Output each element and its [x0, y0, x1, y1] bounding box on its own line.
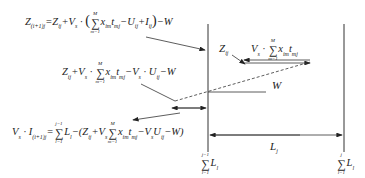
left-axis-label: ∑j−1l=1Ll	[200, 158, 218, 171]
sum-symbol: ∑Mm=1	[96, 67, 105, 79]
bottom-equation: Vs · I(i+1)j=∑j−1l=1Ll−(Zij+Vs∑Mm=1ximtm…	[12, 127, 184, 140]
dashed-line	[175, 62, 310, 101]
sum-symbol: ∑Mm=1	[91, 17, 100, 29]
sum-symbol: ∑Mm=1	[108, 127, 117, 139]
vs-sum-label: Vs · ∑Mm=1ximtmj	[251, 44, 298, 57]
sum-symbol: ∑j−1l=1	[201, 158, 210, 170]
top-equation: Z(i+1)j=Zij+Vs · (∑Mm=1ximtmj−Uij+Iij)−W	[25, 14, 173, 29]
sum-symbol: ∑Mm=1	[269, 44, 278, 56]
middle-pointer-arrow	[141, 84, 175, 101]
bottom-pointer-arrow	[133, 113, 180, 120]
right-axis-label: ∑jl=1Ll	[336, 158, 354, 171]
sum-symbol: ∑jl=1	[337, 158, 346, 170]
middle-equation: Zij+Vs · ∑Mm=1ximtmj−Vs · Uij−W	[62, 67, 176, 80]
sum-symbol: ∑j−1l=1	[55, 127, 64, 139]
zij-label: Zij	[219, 42, 228, 56]
w-label: W	[272, 79, 281, 91]
zij-pointer	[232, 55, 245, 64]
lj-label: Lj	[270, 140, 278, 154]
top-pointer-arrow	[146, 37, 205, 50]
